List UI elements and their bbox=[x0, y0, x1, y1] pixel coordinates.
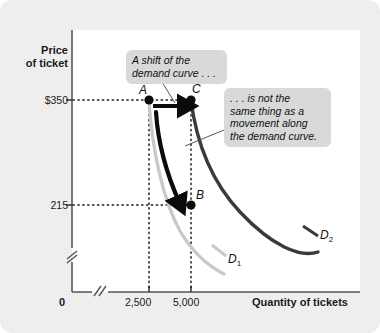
y-axis-break-icon bbox=[67, 251, 77, 263]
data-point-b bbox=[186, 200, 195, 209]
x-axis-title: Quantity of tickets bbox=[252, 296, 348, 309]
y-tick-label-215: 215 bbox=[28, 199, 68, 211]
point-label-a: A bbox=[139, 83, 147, 97]
curve-label-d1-subscript: 1 bbox=[237, 259, 241, 268]
figure-container: Price of ticket Quantity of tickets $350… bbox=[0, 0, 380, 333]
movement-arrow bbox=[156, 112, 180, 204]
x-axis-break-icon bbox=[94, 286, 106, 296]
demand-curve-d1 bbox=[149, 100, 224, 274]
y-tick-label-350: $350 bbox=[28, 94, 68, 106]
curve-label-d2: D2 bbox=[320, 228, 333, 244]
curve-label-d1: D1 bbox=[228, 252, 241, 268]
point-label-c: C bbox=[192, 82, 201, 96]
y-axis-title: Price of ticket bbox=[12, 44, 68, 70]
x-tick-label-5000: 5,000 bbox=[173, 296, 199, 308]
origin-label: 0 bbox=[59, 296, 65, 308]
movement-callout-leader bbox=[185, 130, 224, 146]
shift-callout: A shift of the demand curve . . . bbox=[126, 50, 227, 84]
point-label-b: B bbox=[196, 188, 204, 202]
d1-label-leader bbox=[212, 245, 226, 256]
movement-callout: . . . is not the same thing as a movemen… bbox=[224, 88, 331, 147]
x-tick-label-2500: 2,500 bbox=[125, 296, 151, 308]
data-point-c bbox=[186, 95, 195, 104]
d2-label-leader bbox=[303, 226, 318, 236]
curve-label-d2-subscript: 2 bbox=[329, 235, 333, 244]
curve-label-d1-letter: D bbox=[228, 252, 237, 266]
curve-label-d2-letter: D bbox=[320, 228, 329, 242]
